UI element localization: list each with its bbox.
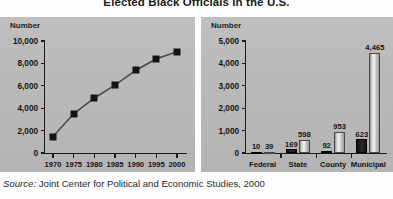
bar-chart-y-tick-label: 2,000 — [201, 104, 239, 113]
line-chart-data-point — [112, 82, 119, 89]
bar-chart-y-tick-label: 3,000 — [201, 81, 239, 90]
bar-chart-y-axis — [245, 41, 246, 154]
source-text: Joint Center for Political and Economic … — [39, 178, 265, 189]
bar-chart-y-tick-label: 1,000 — [201, 126, 239, 135]
bar-chart-y-tick-label: 5,000 — [201, 37, 239, 46]
bar-chart-category-label: County — [320, 160, 346, 169]
bar-2000-federal — [264, 152, 275, 154]
bar-value-label: 623 — [356, 130, 369, 139]
page-title: Elected Black Officials in the U.S. — [0, 0, 393, 8]
bar-chart-y-tick — [242, 85, 246, 86]
bar-value-label: 598 — [298, 130, 311, 139]
bar-chart-group-tick — [316, 154, 317, 158]
bar-chart-y-tick-label: 0 — [201, 149, 239, 158]
bar-chart-y-tick — [242, 152, 246, 153]
bar-value-label: 39 — [265, 142, 273, 151]
line-chart-data-point — [70, 110, 77, 117]
bar-1970-county — [321, 151, 332, 153]
bar-2000-county — [334, 132, 345, 153]
bar-chart-y-tick — [242, 108, 246, 109]
bar-chart-y-tick-label: 4,000 — [201, 59, 239, 68]
bar-2000-municipal — [369, 53, 380, 153]
bar-1970-municipal — [356, 139, 367, 153]
bar-value-label: 10 — [252, 142, 260, 151]
bar-value-label: 4,465 — [365, 43, 384, 52]
line-chart-data-point — [132, 67, 139, 74]
bar-chart-plot-area: 01,0002,0003,0004,0005,000Federal1039Sta… — [201, 17, 393, 172]
bar-chart-category-label: Federal — [249, 160, 276, 169]
bar-chart-panel: Number 19702000 01,0002,0003,0004,0005,0… — [201, 17, 393, 172]
line-chart-data-point — [174, 48, 181, 55]
bar-chart-group-tick — [351, 154, 352, 158]
bar-1970-federal — [251, 152, 262, 154]
bar-chart-y-tick — [242, 130, 246, 131]
bar-chart-y-tick — [242, 63, 246, 64]
figure-elected-black-officials: Elected Black Officials in the U.S. Numb… — [0, 0, 393, 199]
line-chart-plot-area: 02,0004,0006,0008,00010,0001970197519801… — [0, 17, 195, 172]
source-note: Source: Joint Center for Political and E… — [3, 178, 265, 189]
line-chart-data-point — [153, 55, 160, 62]
bar-chart-category-label: Municipal — [351, 160, 386, 169]
bar-value-label: 169 — [285, 140, 298, 149]
bar-chart-y-tick — [242, 40, 246, 41]
bar-chart-group-tick — [280, 154, 281, 158]
bar-chart-category-label: State — [289, 160, 308, 169]
line-chart-data-point — [50, 133, 57, 140]
bar-1970-state — [286, 149, 297, 153]
bar-value-label: 92 — [322, 141, 330, 150]
line-chart-data-point — [91, 94, 98, 101]
bar-2000-state — [299, 140, 310, 153]
source-label: Source: — [3, 178, 36, 189]
line-chart-panel: Number 02,0004,0006,0008,00010,000197019… — [0, 17, 195, 172]
bar-value-label: 953 — [333, 122, 346, 131]
